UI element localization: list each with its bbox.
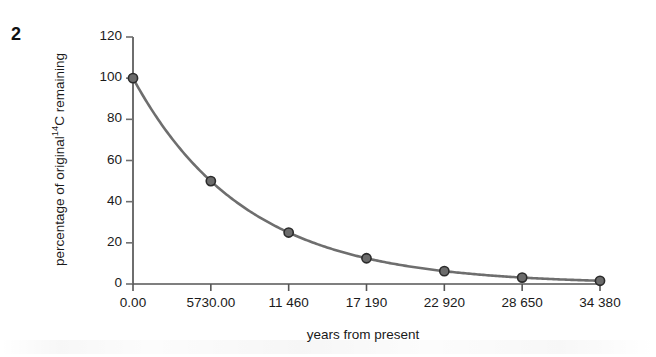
data-point-markers	[128, 74, 604, 286]
data-point-marker	[362, 254, 371, 263]
y-tick-label: 100	[82, 69, 122, 84]
data-point-marker	[595, 276, 604, 285]
x-axis-ticks	[133, 284, 600, 291]
y-tick-label: 0	[82, 275, 122, 290]
y-tick-label: 60	[82, 152, 122, 167]
decay-curve-line	[133, 78, 600, 281]
y-tick-label: 80	[82, 110, 122, 125]
y-tick-label: 120	[82, 28, 122, 43]
data-point-marker	[206, 176, 215, 185]
data-point-marker	[128, 74, 137, 83]
x-tick-label: 34 380	[554, 295, 646, 310]
y-tick-label: 40	[82, 193, 122, 208]
figure-container: 2 percentage of original14C remaining ye…	[0, 0, 656, 357]
data-point-marker	[284, 228, 293, 237]
data-point-marker	[518, 273, 527, 282]
data-point-marker	[440, 267, 449, 276]
y-tick-label: 20	[82, 234, 122, 249]
